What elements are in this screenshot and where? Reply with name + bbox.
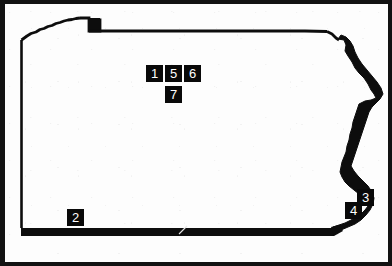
erie-notch-fill <box>89 18 100 31</box>
frame-border-bottom <box>0 262 392 266</box>
northern-border-path <box>89 31 327 32</box>
marker-2[interactable]: 2 <box>67 209 84 226</box>
map-paper: 1567234 <box>5 4 388 262</box>
marker-7[interactable]: 7 <box>165 86 182 103</box>
marker-1[interactable]: 1 <box>146 65 163 82</box>
marker-4[interactable]: 4 <box>345 202 362 219</box>
lake-erie-shoreline-path <box>22 18 81 40</box>
marker-6[interactable]: 6 <box>184 65 201 82</box>
northeast-corner-path <box>327 32 339 41</box>
pennsylvania-map-figure: 1567234 <box>0 0 392 266</box>
pennsylvania-outline-svg <box>5 4 388 262</box>
frame-border-right <box>388 0 392 266</box>
mason-dixon-line-path <box>21 228 335 236</box>
marker-5[interactable]: 5 <box>165 65 182 82</box>
